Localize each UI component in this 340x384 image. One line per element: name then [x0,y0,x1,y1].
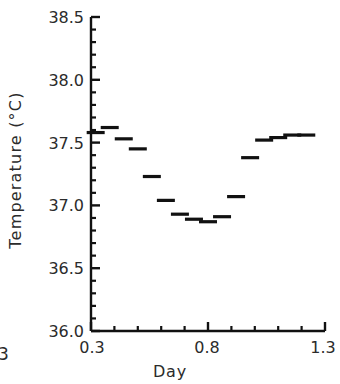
y-tick-label-37-0: 37.0 [34,196,84,215]
axis-lines [91,17,325,331]
x-tick-label-0-3: 0.3 [70,338,114,357]
y-tick-label-37-5: 37.5 [34,134,84,153]
x-axis-label: Day [0,362,340,381]
temperature-day-chart: 3 Temperature (°C) Day 38.5 38.0 37.5 37… [0,0,340,384]
cropped-page-artifact: 3 [0,344,9,364]
x-axis-ticks [91,322,325,331]
x-tick-label-0-8: 0.8 [185,338,229,357]
y-tick-label-38-0: 38.0 [34,71,84,90]
y-tick-label-38-5: 38.5 [34,8,84,27]
y-axis-label: Temperature (°C) [6,62,32,278]
x-tick-label-1-3: 1.3 [301,338,340,357]
y-axis-ticks [91,17,100,331]
y-tick-label-36-5: 36.5 [34,259,84,278]
data-marks [87,128,316,222]
